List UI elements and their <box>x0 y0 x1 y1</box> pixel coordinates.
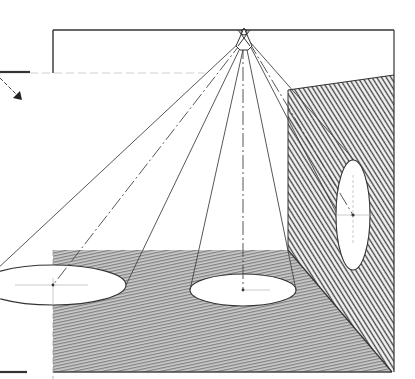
diagram-canvas: Light cone projection onto floor and wal… <box>0 0 415 379</box>
light-source-icon <box>236 28 252 50</box>
direction-arrow-icon <box>0 78 22 100</box>
floor-spot-left <box>0 265 126 305</box>
lighting-diagram <box>0 0 415 379</box>
